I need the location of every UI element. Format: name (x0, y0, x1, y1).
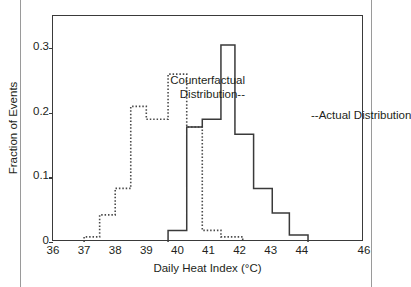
page-rule-right (371, 0, 372, 287)
annotation-counterfactual-leader: -- (237, 88, 245, 100)
annotation-counterfactual-line1: Counterfactual (170, 74, 245, 86)
x-tick-label: 38 (109, 245, 122, 257)
x-tick-label: 40 (171, 245, 184, 257)
page-rule-left (20, 0, 21, 287)
y-tick-mark (49, 113, 53, 114)
y-tick-mark (49, 48, 53, 49)
x-tick-label: 42 (233, 245, 246, 257)
annotation-actual-leader: -- (311, 109, 319, 121)
x-tick-label: 36 (47, 245, 60, 257)
x-tick-label: 39 (140, 245, 153, 257)
annotation-actual-label: Actual Distribution (319, 109, 411, 121)
y-tick-label: 0.2 (33, 106, 49, 118)
x-tick-label: 44 (295, 245, 308, 257)
y-tick-label: 0.3 (33, 41, 49, 53)
x-tick-label: 41 (202, 245, 215, 257)
annotation-actual: --Actual Distribution (311, 108, 411, 122)
y-tick-mark (49, 177, 53, 178)
y-tick-label: 0.1 (33, 170, 49, 182)
x-tick-label: 43 (264, 245, 277, 257)
x-axis-label: Daily Heat Index (°C) (52, 262, 363, 275)
x-tick-label: 46 (358, 245, 371, 257)
histogram-svg (53, 16, 364, 242)
x-tick-label: 37 (78, 245, 91, 257)
y-tick-mark (49, 242, 53, 243)
plot-area: Counterfactual Distribution-- --Actual D… (52, 15, 363, 241)
annotation-counterfactual: Counterfactual Distribution-- (141, 73, 245, 101)
annotation-counterfactual-line2: Distribution (180, 88, 238, 100)
y-axis-label: Fraction of Events (6, 15, 20, 241)
